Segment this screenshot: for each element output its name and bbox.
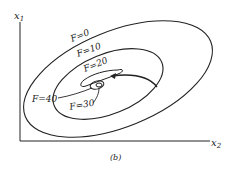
x-axis-label: x2 [211, 137, 222, 150]
label-f10: F=10 [74, 41, 102, 59]
label-f40: F=40 [31, 94, 58, 104]
search-path-arrow [112, 75, 157, 87]
arrow-head-icon [110, 73, 116, 79]
label-f0: F=0 [68, 27, 91, 44]
leader-f40 [58, 88, 92, 98]
figure-caption: (b) [110, 153, 121, 162]
label-f30: F=30 [68, 98, 96, 112]
contour-f40 [96, 83, 102, 87]
contour-diagram: x1 x2 F=0 F=10 F=20 F=30 F=40 (b) [0, 0, 233, 174]
contour-f0 [7, 0, 228, 161]
y-axis-label: x1 [14, 10, 24, 23]
